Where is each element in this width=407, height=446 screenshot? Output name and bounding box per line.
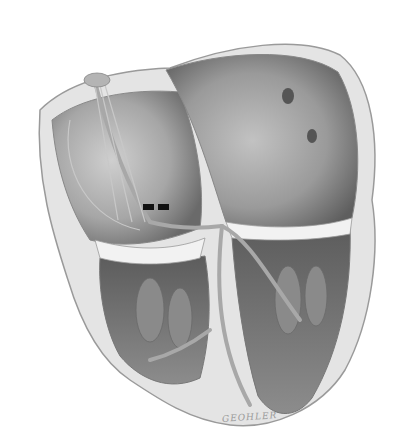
pulmonary-vein-opening bbox=[282, 88, 294, 104]
pulmonary-vein-opening bbox=[307, 129, 317, 143]
marker-left bbox=[143, 204, 154, 210]
heart-svg bbox=[0, 0, 407, 446]
sa-node bbox=[84, 73, 110, 87]
heart-illustration: GEOHLER bbox=[0, 0, 407, 446]
marker-right bbox=[158, 204, 169, 210]
